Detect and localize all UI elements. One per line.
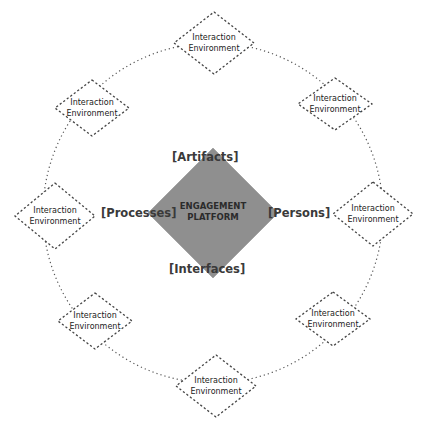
platform-title-line2: PLATFORM: [168, 212, 258, 223]
env-label-line1: Interaction: [295, 93, 375, 104]
label-interfaces: [Interfaces]: [169, 262, 245, 276]
env-label-line2: Environment: [174, 43, 254, 54]
env-label-left: Interaction Environment: [15, 205, 95, 227]
platform-title-line1: ENGAGEMENT: [168, 201, 258, 212]
label-artifacts: [Artifacts]: [172, 150, 238, 164]
env-label-line2: Environment: [52, 108, 132, 119]
env-label-line2: Environment: [293, 319, 373, 330]
env-label-line1: Interaction: [333, 203, 413, 214]
env-label-line1: Interaction: [176, 375, 256, 386]
env-label-line1: Interaction: [52, 97, 132, 108]
env-label-line2: Environment: [15, 216, 95, 227]
env-label-line1: Interaction: [55, 310, 135, 321]
env-label-bottom-right: Interaction Environment: [293, 308, 373, 330]
label-persons: [Persons]: [268, 206, 330, 220]
env-label-top: Interaction Environment: [174, 32, 254, 54]
label-processes: [Processes]: [101, 206, 176, 220]
env-label-line2: Environment: [333, 214, 413, 225]
platform-title: ENGAGEMENT PLATFORM: [168, 201, 258, 223]
env-label-line2: Environment: [295, 104, 375, 115]
env-label-right: Interaction Environment: [333, 203, 413, 225]
env-label-line1: Interaction: [293, 308, 373, 319]
env-label-line2: Environment: [55, 321, 135, 332]
env-label-bottom: Interaction Environment: [176, 375, 256, 397]
env-label-line1: Interaction: [15, 205, 95, 216]
env-label-line2: Environment: [176, 386, 256, 397]
env-label-bottom-left: Interaction Environment: [55, 310, 135, 332]
env-label-top-left: Interaction Environment: [52, 97, 132, 119]
env-label-line1: Interaction: [174, 32, 254, 43]
env-label-top-right: Interaction Environment: [295, 93, 375, 115]
